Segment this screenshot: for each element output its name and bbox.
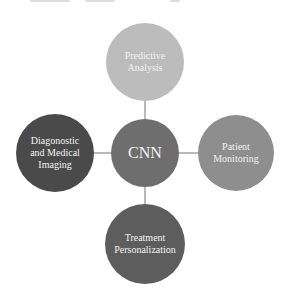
label-line: Monitoring [213,153,259,165]
label-line: Analysis [125,62,166,74]
label-treatment-personalization: Treatment Personalization [105,204,185,284]
label-predictive-analysis: Predictive Analysis [106,23,184,101]
label-line: Personalization [114,244,176,256]
label-line: and Medical [30,147,80,159]
label-line: Predictive [125,50,166,62]
label-line: Patient [213,141,259,153]
label-line: Treatment [114,232,176,244]
label-cnn: CNN [111,119,179,187]
label-line: Imaging [30,159,80,171]
label-patient-monitoring: Patient Monitoring [198,115,274,191]
label-diagnostic-imaging: Diagonostic and Medical Imaging [16,114,94,192]
label-line: Diagonostic [30,135,80,147]
center-label: CNN [128,144,162,162]
